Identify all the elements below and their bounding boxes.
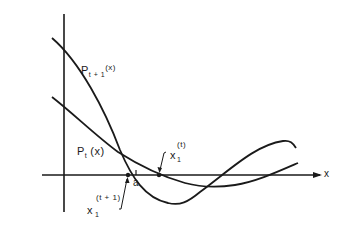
label-p-t-plus-1: Pt + 1(x) (81, 64, 116, 78)
x-axis-label: x (324, 169, 329, 179)
label-x-sub: 1 (95, 211, 99, 218)
label-x1-t1: x (t + 1) 1 (87, 205, 93, 216)
label-x-sup: (t) (177, 141, 186, 149)
label-p-main: P (81, 64, 89, 76)
root-x1-t-dot (157, 173, 161, 177)
label-p-main: P (77, 145, 85, 157)
label-p-arg: (x) (105, 63, 116, 72)
label-x-main: x (87, 204, 93, 216)
label-a: a (133, 178, 139, 188)
root-x1-t1-dot (126, 173, 130, 177)
x-axis-arrowhead-icon (313, 172, 322, 178)
arrow-x1-t1-icon (125, 177, 130, 183)
label-x1-t: x (t) 1 (170, 150, 176, 161)
label-p-sub: t + 1 (89, 71, 105, 78)
label-p-t: Pt(x) (77, 146, 105, 159)
diagram-canvas (0, 0, 351, 226)
curve-p-t (52, 97, 298, 187)
label-x-sub: 1 (177, 156, 181, 163)
leader-x1-t (160, 152, 166, 170)
arrow-x1-t-icon (158, 167, 163, 173)
label-p-sub: t (85, 152, 87, 159)
label-p-arg: (x) (90, 145, 104, 157)
label-x-main: x (170, 149, 176, 161)
label-x-sup: (t + 1) (96, 194, 121, 202)
